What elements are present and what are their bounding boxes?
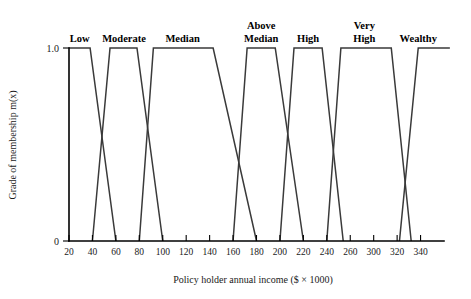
membership-curves-group	[69, 48, 450, 241]
x-tick-label: 300	[367, 247, 382, 257]
x-tick-label: 100	[156, 247, 171, 257]
fuzzy-set-label-above-median: Above	[247, 20, 276, 31]
y-axis-ticks	[63, 48, 69, 241]
x-tick-label: 240	[320, 247, 335, 257]
fuzzy-set-label-wealthy: Wealthy	[400, 33, 438, 44]
x-tick-label: 260	[343, 247, 358, 257]
x-tick-label: 120	[179, 247, 194, 257]
fuzzy-membership-chart: 2040608010012014016018020022024026030032…	[0, 0, 471, 299]
x-axis-tick-labels: 2040608010012014016018020022024026030032…	[64, 247, 428, 257]
fuzzy-set-label-high: High	[297, 33, 319, 44]
x-tick-label: 80	[135, 247, 145, 257]
fuzzy-set-label-low: Low	[70, 33, 90, 44]
y-axis-title: Grade of membership m(x)	[7, 90, 19, 199]
x-tick-label: 220	[296, 247, 311, 257]
membership-curve-median	[139, 48, 256, 241]
membership-curve-above-median	[233, 48, 303, 241]
fuzzy-set-label-very-high: High	[353, 33, 375, 44]
x-axis-ticks	[69, 235, 421, 241]
fuzzy-set-labels: LowModerateMedianAboveMedianHighVeryHigh…	[70, 20, 438, 44]
x-tick-label: 340	[413, 247, 428, 257]
y-axis-tick-labels: 01.0	[47, 43, 60, 247]
x-tick-label: 40	[88, 247, 98, 257]
y-tick-label: 1.0	[47, 43, 60, 54]
axes-group	[63, 48, 444, 241]
fuzzy-set-label-very-high: Very	[354, 20, 376, 31]
x-tick-label: 20	[64, 247, 74, 257]
fuzzy-set-label-above-median: Median	[244, 33, 279, 44]
x-tick-label: 60	[111, 247, 121, 257]
membership-curve-low	[69, 48, 116, 241]
x-tick-label: 200	[273, 247, 288, 257]
x-tick-label: 140	[203, 247, 218, 257]
x-tick-label: 180	[249, 247, 264, 257]
membership-curve-wealthy	[399, 48, 449, 241]
y-tick-label: 0	[54, 236, 59, 247]
x-tick-label: 320	[390, 247, 405, 257]
x-axis-title: Policy holder annual income ($ × 1000)	[173, 274, 333, 286]
chart-canvas: 2040608010012014016018020022024026030032…	[0, 0, 471, 299]
fuzzy-set-label-moderate: Moderate	[102, 33, 146, 44]
fuzzy-set-label-median: Median	[165, 33, 200, 44]
x-tick-label: 160	[226, 247, 241, 257]
